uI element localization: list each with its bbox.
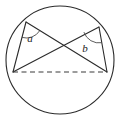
circle-outline — [6, 6, 114, 114]
side-top-right-to-bottom-right — [99, 27, 107, 72]
figure-canvas: a b — [0, 0, 120, 119]
angle-label-a: a — [27, 32, 33, 44]
angle-label-b: b — [82, 42, 88, 54]
geometry-figure: a b — [0, 0, 120, 119]
